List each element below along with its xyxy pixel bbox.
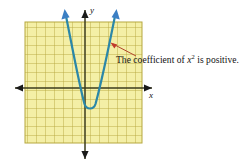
parabola-figure: The coefficient of x2 is positive. x y	[0, 0, 244, 165]
annotation-text-after: is positive.	[195, 55, 239, 65]
parabola-right-arrowhead	[112, 9, 120, 20]
annotation-caption: The coefficient of x2 is positive.	[116, 55, 239, 65]
parabola-left-arrowhead	[61, 9, 69, 20]
coordinate-grid	[25, 22, 142, 143]
y-axis-label: y	[90, 5, 94, 15]
annotation-text-before: The coefficient of	[116, 55, 187, 65]
x-axis-label: x	[149, 90, 153, 100]
graph-canvas	[0, 0, 244, 165]
